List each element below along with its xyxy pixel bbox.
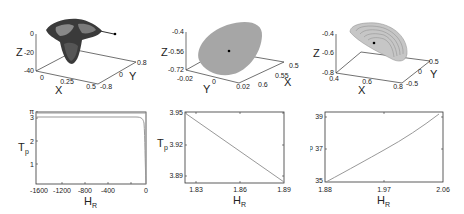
x-axis-subscript: R [385, 201, 390, 208]
x-tick: 0.8 [393, 83, 403, 90]
contour-surface [350, 23, 407, 61]
marked-point [114, 33, 117, 36]
ellipsoid-surface [198, 22, 262, 75]
y-tick: -0.02 [177, 75, 193, 82]
z-tick: 0 [30, 30, 34, 37]
x-tick: -800 [78, 187, 92, 194]
plot-frame [36, 112, 146, 184]
x-axis-label: X [358, 84, 366, 96]
x-tick: 1.89 [277, 186, 291, 193]
z-tick: -0.4 [172, 28, 184, 35]
line-plot-bottom-right: 39 37 35 T p 1.88 1.97 2.06 H R [310, 107, 464, 214]
x-tick: -1600 [30, 187, 48, 194]
surface-plot-top-left: 0 -20 -40 Z 0 0.25 0.5 X -0.8 0 0.8 Y [0, 0, 155, 107]
z-tick: -0.6 [322, 49, 334, 56]
line-plot-bottom-left: π 3 2 1 T p -1600 -1200 -800 -400 0 H R [0, 107, 155, 214]
plot-frame [325, 112, 443, 182]
z-axis-label: Z [161, 46, 168, 58]
y-tick: 39 [315, 113, 323, 120]
surface-plot-top-right: -0.4 -0.6 -0.8 Z 0.4 0.6 0.8 X 0.5 0 -0.… [310, 0, 464, 107]
x-axis-label: H [377, 194, 385, 206]
y-tick: 0 [418, 68, 422, 75]
x-tick: 1.97 [377, 186, 391, 193]
x-axis-subscript: R [241, 201, 246, 208]
y-tick: 3.92 [169, 141, 183, 148]
y-axis-subscript: p [25, 148, 29, 156]
x-tick: 0.6 [258, 81, 268, 88]
y-tick: -0.5 [406, 80, 418, 87]
z-tick: -0.4 [322, 30, 334, 37]
trajectory-curve [100, 31, 114, 34]
x-tick: 2.06 [436, 186, 450, 193]
marked-point [373, 42, 376, 45]
y-axis-label: Y [203, 83, 211, 95]
y-tick: 0.02 [236, 83, 250, 90]
y-tick: -0.8 [100, 83, 112, 90]
y-axis-label: Y [430, 68, 438, 80]
z-axis-label: Z [16, 46, 23, 58]
z-tick: -0.72 [168, 66, 184, 73]
y-axis-label: T [18, 141, 25, 153]
x-tick: 0.5 [289, 62, 299, 69]
x-tick: 0.5 [86, 83, 96, 90]
z-tick: -40 [24, 67, 34, 74]
x-tick: 0 [40, 74, 44, 81]
x-axis-label: X [55, 84, 63, 96]
y-axis-subscript: p [310, 144, 313, 152]
y-tick: 0.5 [429, 58, 439, 65]
y-axis-subscript: p [164, 144, 168, 152]
z-axis-label: Z [313, 47, 320, 59]
y-tick: 35 [315, 177, 323, 184]
series-tp [185, 113, 284, 182]
x-tick: 0.4 [329, 75, 339, 82]
x-tick: 0 [144, 187, 148, 194]
x-tick: 1.83 [189, 186, 203, 193]
x-axis-label: X [284, 76, 292, 88]
y-tick: 0 [119, 71, 123, 78]
y-tick: 37 [315, 145, 323, 152]
x-tick: -1200 [53, 187, 71, 194]
surface-plot-top-middle: -0.4 -0.56 -0.72 Z -0.02 0 0.02 Y 0.5 0.… [155, 0, 310, 107]
series-lower [36, 117, 146, 184]
x-axis-label: H [84, 195, 92, 207]
y-axis-label: T [157, 137, 164, 149]
x-tick: -400 [101, 187, 115, 194]
x-axis-label: H [233, 194, 241, 206]
z-tick: -0.56 [168, 48, 184, 55]
series-tp [326, 114, 439, 182]
marked-point [228, 50, 231, 53]
y-tick: 3 [30, 114, 34, 121]
funnel-surface [46, 19, 102, 64]
y-tick: 3.95 [169, 109, 183, 116]
y-tick: 0 [212, 78, 216, 85]
x-tick: 1.88 [318, 186, 332, 193]
y-tick: 2 [30, 138, 34, 145]
x-axis-subscript: R [92, 202, 97, 209]
x-tick: 1.86 [233, 186, 247, 193]
y-tick: 3.89 [169, 172, 183, 179]
z-tick: -20 [24, 49, 34, 56]
y-axis-label: Y [129, 70, 137, 82]
y-tick: 0.8 [137, 59, 147, 66]
line-plot-bottom-middle: 3.95 3.92 3.89 T p 1.83 1.86 1.89 H R [155, 107, 310, 214]
y-tick: 1 [30, 161, 34, 168]
